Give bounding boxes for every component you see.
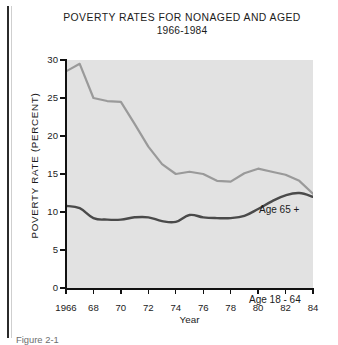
plot-area: Age 65 + Age 18 - 64 — [66, 60, 313, 288]
x-tick-84 — [312, 288, 313, 294]
x-tick-label-84: 84 — [293, 297, 333, 315]
y-tick-label-text: 30 — [34, 54, 58, 65]
x-tick-68 — [93, 288, 94, 294]
x-tick-label-text: 84 — [308, 302, 319, 313]
x-tick-72 — [148, 288, 149, 294]
x-tick-74 — [175, 288, 176, 294]
series-label-age-65-plus: Age 65 + — [259, 204, 299, 215]
x-tick-76 — [203, 288, 204, 294]
x-tick-78 — [230, 288, 231, 294]
y-tick-30 — [60, 59, 66, 60]
x-tick-label-text: 68 — [88, 302, 99, 313]
y-tick-5 — [60, 249, 66, 250]
figure-caption: Figure 2-1 — [16, 334, 59, 345]
y-tick-label-text: 0 — [34, 282, 58, 293]
x-tick-70 — [120, 288, 121, 294]
x-tick-label-text: 82 — [280, 302, 291, 313]
y-tick-15 — [60, 173, 66, 174]
y-tick-label-0: 0 — [34, 282, 58, 294]
y-tick-label-30: 30 — [34, 54, 58, 66]
series-line-age-65-plus — [66, 64, 313, 194]
y-tick-20 — [60, 135, 66, 136]
x-tick-label-text: 74 — [170, 302, 181, 313]
x-tick-label-text: 80 — [253, 302, 264, 313]
x-axis-line — [65, 288, 314, 290]
y-tick-25 — [60, 97, 66, 98]
x-tick-label-text: 72 — [143, 302, 154, 313]
series-canvas — [66, 60, 313, 288]
x-axis-title: Year — [66, 314, 313, 325]
x-tick-label-text: 76 — [198, 302, 209, 313]
x-tick-80 — [257, 288, 258, 294]
x-tick-82 — [285, 288, 286, 294]
x-tick-label-text: 78 — [225, 302, 236, 313]
x-tick-label-text: 70 — [116, 302, 127, 313]
x-tick-1966 — [65, 288, 66, 294]
y-axis-title: POVERTY RATE (PERCENT) — [29, 76, 40, 256]
y-tick-10 — [60, 211, 66, 212]
